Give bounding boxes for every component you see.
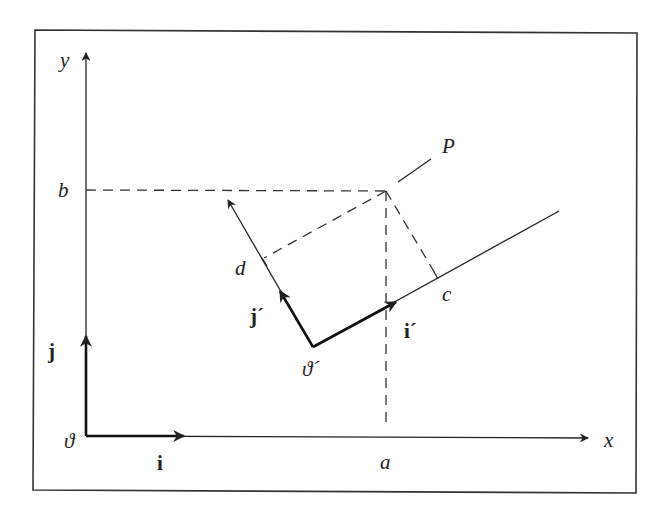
label-y-axis: y	[58, 48, 70, 72]
unit-vector-i-prime	[313, 302, 396, 347]
label-c: c	[442, 282, 452, 306]
label-x-axis: x	[603, 428, 614, 452]
figure-border	[34, 30, 637, 232]
projection-d	[264, 191, 386, 258]
label-origin-prime: ϑ´	[302, 357, 320, 381]
coordinate-diagram: y x b a P d c ϑ ϑ´ i j i´ j´	[0, 0, 661, 516]
label-p: P	[441, 134, 455, 158]
label-unit-j-prime: j´	[249, 304, 264, 328]
label-unit-i-prime: i´	[404, 319, 417, 343]
projection-c	[386, 191, 436, 275]
projection-b	[86, 190, 386, 191]
point-p-leader	[398, 159, 431, 182]
tick-d	[262, 258, 267, 266]
label-a: a	[380, 450, 391, 474]
label-unit-i: i	[157, 451, 163, 475]
label-origin: ϑ	[64, 429, 76, 453]
label-unit-j: j	[47, 339, 55, 363]
figure-border	[33, 30, 637, 493]
tick-c	[434, 272, 438, 279]
label-d: d	[235, 256, 246, 280]
unit-vector-j-prime	[280, 291, 313, 347]
label-b: b	[58, 178, 69, 202]
